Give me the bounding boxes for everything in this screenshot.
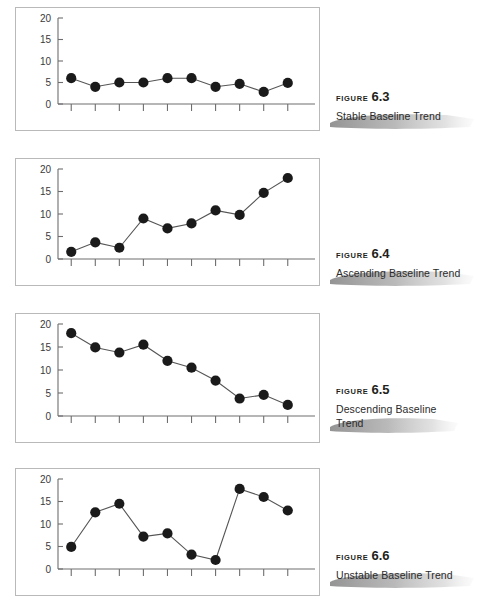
data-point-marker <box>235 484 245 494</box>
figure-word: FIGURE <box>336 387 369 396</box>
y-axis-tick-label: 5 <box>45 77 51 88</box>
data-point-marker <box>114 243 124 253</box>
chart-frame: 05101520 <box>15 468 320 596</box>
figure-title-line: Stable Baseline Trend <box>336 109 478 123</box>
figure-title: Stable Baseline Trend <box>336 109 478 123</box>
figure-title: Descending BaselineTrend <box>336 402 478 430</box>
data-point-marker <box>138 532 148 542</box>
data-point-marker <box>90 237 100 247</box>
data-point-marker <box>259 390 269 400</box>
y-axis-tick-label: 10 <box>40 209 52 220</box>
data-point-marker <box>66 328 76 338</box>
y-axis-tick-label: 10 <box>40 365 52 376</box>
y-axis-tick-label: 10 <box>40 56 52 67</box>
data-point-marker <box>138 340 148 350</box>
data-point-marker <box>162 356 172 366</box>
figure-caption: FIGURE 6.4Ascending Baseline Trend <box>336 247 478 280</box>
figure-title-line: Ascending Baseline Trend <box>336 266 478 280</box>
data-point-marker <box>283 173 293 183</box>
data-series-line <box>71 333 288 405</box>
figure-title-wrap: Ascending Baseline Trend <box>336 266 478 280</box>
y-axis-tick-label: 15 <box>40 34 52 45</box>
y-axis-tick-label: 0 <box>45 411 51 422</box>
data-point-marker <box>162 223 172 233</box>
figure-title-line: Descending Baseline <box>336 402 478 416</box>
figure-label: FIGURE 6.5 <box>336 383 478 398</box>
line-chart: 05101520 <box>16 8 319 130</box>
chart-frame: 05101520 <box>15 313 320 443</box>
line-chart: 05101520 <box>16 469 319 595</box>
data-point-marker <box>235 393 245 403</box>
data-series-line <box>71 489 288 560</box>
figure-title: Ascending Baseline Trend <box>336 266 478 280</box>
y-axis-tick-label: 0 <box>45 564 51 575</box>
y-axis-tick-label: 0 <box>45 254 51 265</box>
y-axis-tick-label: 20 <box>40 164 52 175</box>
figure-number: 6.3 <box>371 89 389 104</box>
line-chart: 05101520 <box>16 159 319 285</box>
data-point-marker <box>235 79 245 89</box>
figure-label: FIGURE 6.4 <box>336 247 478 262</box>
data-point-marker <box>210 82 220 92</box>
y-axis-tick-label: 0 <box>45 99 51 110</box>
data-point-marker <box>186 218 196 228</box>
data-point-marker <box>186 363 196 373</box>
figure-caption: FIGURE 6.6Unstable Baseline Trend <box>336 549 478 582</box>
line-chart: 05101520 <box>16 314 319 442</box>
figure-word: FIGURE <box>336 94 369 103</box>
data-point-marker <box>283 78 293 88</box>
data-point-marker <box>162 73 172 83</box>
data-point-marker <box>210 205 220 215</box>
figure-caption: FIGURE 6.5Descending BaselineTrend <box>336 383 478 430</box>
data-point-marker <box>283 505 293 515</box>
data-series-line <box>71 178 288 252</box>
data-point-marker <box>114 347 124 357</box>
data-point-marker <box>186 550 196 560</box>
figure-number: 6.4 <box>371 246 389 261</box>
y-axis-tick-label: 20 <box>40 13 52 24</box>
data-point-marker <box>90 82 100 92</box>
y-axis-tick-label: 5 <box>45 541 51 552</box>
chart-frame: 05101520 <box>15 7 320 131</box>
figure-word: FIGURE <box>336 251 369 260</box>
y-axis-tick-label: 20 <box>40 474 52 485</box>
data-point-marker <box>259 87 269 97</box>
figure-word: FIGURE <box>336 553 369 562</box>
figure-title-line: Unstable Baseline Trend <box>336 568 478 582</box>
figure-label: FIGURE 6.6 <box>336 549 478 564</box>
data-point-marker <box>235 210 245 220</box>
data-point-marker <box>66 247 76 257</box>
data-point-marker <box>66 73 76 83</box>
y-axis-tick-label: 20 <box>40 319 52 330</box>
y-axis-tick-label: 5 <box>45 388 51 399</box>
data-point-marker <box>138 213 148 223</box>
y-axis-tick-label: 15 <box>40 342 52 353</box>
figure-title-line: Trend <box>336 416 478 430</box>
figure-number: 6.5 <box>371 382 389 397</box>
chart-frame: 05101520 <box>15 158 320 286</box>
figure-page: 05101520FIGURE 6.3Stable Baseline Trend0… <box>0 0 478 600</box>
data-point-marker <box>114 499 124 509</box>
data-point-marker <box>162 528 172 538</box>
figure-title: Unstable Baseline Trend <box>336 568 478 582</box>
figure-title-wrap: Unstable Baseline Trend <box>336 568 478 582</box>
y-axis-tick-label: 10 <box>40 519 52 530</box>
data-series-line <box>71 78 288 92</box>
figure-title-wrap: Descending BaselineTrend <box>336 402 478 430</box>
data-point-marker <box>90 507 100 517</box>
y-axis-tick-label: 5 <box>45 231 51 242</box>
data-point-marker <box>90 342 100 352</box>
data-point-marker <box>283 400 293 410</box>
data-point-marker <box>114 77 124 87</box>
data-point-marker <box>259 188 269 198</box>
data-point-marker <box>186 73 196 83</box>
data-point-marker <box>138 77 148 87</box>
y-axis-tick-label: 15 <box>40 496 52 507</box>
y-axis-tick-label: 15 <box>40 186 52 197</box>
figure-caption: FIGURE 6.3Stable Baseline Trend <box>336 90 478 123</box>
data-point-marker <box>210 555 220 565</box>
figure-label: FIGURE 6.3 <box>336 90 478 105</box>
data-point-marker <box>66 542 76 552</box>
figure-number: 6.6 <box>371 548 389 563</box>
figure-title-wrap: Stable Baseline Trend <box>336 109 478 123</box>
